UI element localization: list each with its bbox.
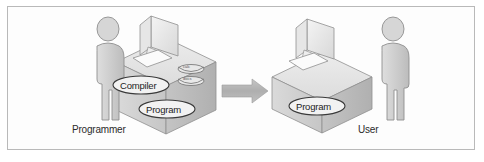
user-figure — [382, 17, 409, 120]
user-head — [382, 17, 404, 41]
disk-platter-icon-1 — [178, 65, 204, 74]
diagram-canvas — [0, 0, 484, 162]
programmer-head — [97, 17, 119, 41]
right-box-group — [272, 53, 372, 133]
disk-label-1: calc — [183, 64, 190, 69]
figure-container: Compiler Program Program calc docs Progr… — [0, 0, 484, 162]
user-label: User — [358, 124, 378, 135]
program-left-label: Program — [146, 104, 181, 115]
user-body — [382, 43, 409, 120]
program-right-label: Program — [296, 101, 331, 112]
compiler-label: Compiler — [120, 80, 156, 91]
programmer-label: Programmer — [72, 124, 126, 135]
right-arrow-icon — [222, 79, 268, 103]
disk-label-2: docs — [183, 76, 191, 81]
